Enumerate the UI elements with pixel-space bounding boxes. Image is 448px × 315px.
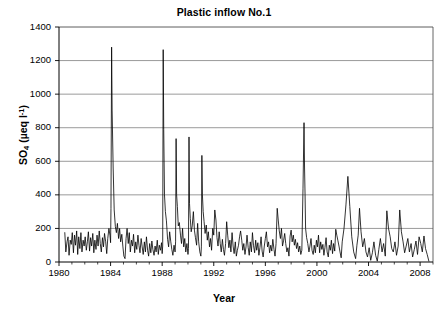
x-axis-title: Year [0, 292, 448, 304]
y-axis-title-unit-open: (µeq l [17, 115, 29, 146]
data-series-line [65, 47, 429, 261]
y-axis-title: SO4 (µeq l-1) [17, 65, 31, 205]
x-tick-label: 1980 [39, 268, 79, 278]
x-tick-label: 1984 [91, 268, 131, 278]
y-axis-title-superscript: -1 [17, 108, 26, 115]
y-axis-title-base: SO [17, 150, 29, 165]
y-tick-label: 1200 [17, 55, 51, 65]
x-tick-label: 2004 [349, 268, 389, 278]
x-tick-label: 2000 [297, 268, 337, 278]
y-axis-title-unit-close: ) [17, 105, 29, 109]
y-tick-label: 200 [17, 223, 51, 233]
x-tick-label: 1988 [142, 268, 182, 278]
x-tick-label: 1992 [194, 268, 234, 278]
y-tick-label: 1400 [17, 22, 51, 32]
y-tick-label: 0 [17, 257, 51, 267]
y-major-ticks [55, 27, 59, 262]
gridlines [59, 27, 433, 228]
x-tick-label: 2008 [400, 268, 440, 278]
x-tick-label: 1996 [245, 268, 285, 278]
chart-figure: Plastic inflow No.1 02004006008001000120… [0, 0, 448, 315]
y-axis-title-subscript: 4 [22, 146, 31, 150]
